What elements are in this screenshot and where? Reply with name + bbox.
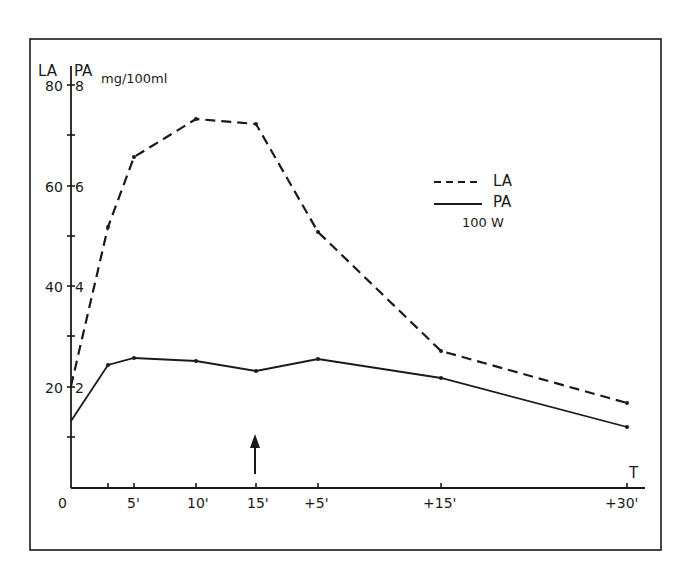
chart: LA PA mg/100ml 80 8 60 6 40 4 20 2 0 5' … [0,0,683,566]
x-tick-label-15: 15' [247,495,269,511]
y-tick-label-4: 4 [75,279,84,295]
x-tick-label-0: 0 [58,495,67,511]
y-axis-unit: mg/100ml [101,71,167,86]
series-la-line [71,119,627,403]
x-tick-label-plus5: +5' [304,495,329,511]
y-tick-label-20: 20 [45,380,63,396]
x-tick-label-5: 5' [127,495,140,511]
x-axis-label-t: T [628,464,639,482]
legend-pa-label: PA [493,193,512,211]
x-tick-label-10: 10' [187,495,209,511]
x-tick-label-plus15: +15' [423,495,456,511]
y-tick-label-8: 8 [75,78,84,94]
chart-frame [30,39,661,550]
y-tick-label-2: 2 [75,380,84,396]
series-la-markers [106,117,629,405]
y-tick-label-40: 40 [45,279,63,295]
y-tick-label-80: 80 [45,78,63,94]
legend: LA PA 100 W [434,172,513,230]
legend-note: 100 W [462,215,504,230]
legend-la-label: LA [493,172,513,190]
y-tick-label-60: 60 [45,179,63,195]
y-tick-label-6: 6 [75,179,84,195]
arrow-up-icon [250,434,260,474]
x-tick-label-plus30: +30' [605,495,638,511]
series-pa-line [71,358,627,427]
